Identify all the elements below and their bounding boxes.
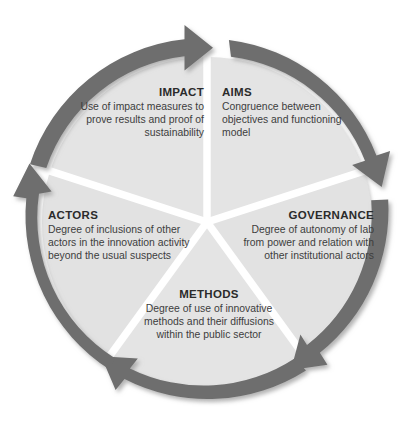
segment-aims-body: Congruence between objectives and functi… xyxy=(222,100,352,140)
segment-governance-title: GOVERNANCE xyxy=(238,209,374,221)
segment-aims-title: AIMS xyxy=(222,86,352,98)
segment-actors-body: Degree of inclusions of other actors in … xyxy=(48,223,190,263)
segment-impact: IMPACT Use of impact measures to prove r… xyxy=(68,86,204,140)
segment-actors: ACTORS Degree of inclusions of other act… xyxy=(48,209,190,263)
segment-impact-body: Use of impact measures to prove results … xyxy=(68,100,204,140)
cycle-diagram: IMPACT Use of impact measures to prove r… xyxy=(0,0,413,422)
segment-actors-title: ACTORS xyxy=(48,209,190,221)
segment-impact-title: IMPACT xyxy=(68,86,204,98)
segment-governance: GOVERNANCE Degree of autonomy of lab fro… xyxy=(238,209,374,263)
segment-methods-title: METHODS xyxy=(130,288,288,300)
segment-governance-body: Degree of autonomy of lab from power and… xyxy=(238,223,374,263)
segment-methods: METHODS Degree of use of innovative meth… xyxy=(130,288,288,342)
segment-methods-body: Degree of use of innovative methods and … xyxy=(130,302,288,342)
segment-aims: AIMS Congruence between objectives and f… xyxy=(222,86,352,140)
